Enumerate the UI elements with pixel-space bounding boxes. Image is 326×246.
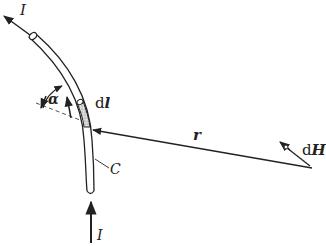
curve-label-leader (95, 159, 109, 168)
biot-savart-diagram: I I α dl r dH C (0, 0, 326, 246)
label-dH-symbol: H (311, 141, 326, 159)
label-dH-prefix: d (302, 141, 312, 159)
position-vector-r (93, 130, 312, 168)
label-dl-prefix: d (95, 94, 105, 112)
label-current-bottom: I (96, 227, 103, 243)
label-alpha: α (48, 91, 59, 107)
label-current-top: I (19, 1, 27, 19)
label-dl-symbol: l (105, 94, 111, 112)
label-curve-C: C (110, 161, 121, 177)
field-point (284, 145, 288, 149)
current-arrow-top (4, 16, 30, 35)
label-dH: dH (302, 141, 326, 159)
label-dl: dl (95, 94, 111, 112)
label-r: r (193, 126, 202, 144)
element-direction-arrow (67, 97, 71, 118)
